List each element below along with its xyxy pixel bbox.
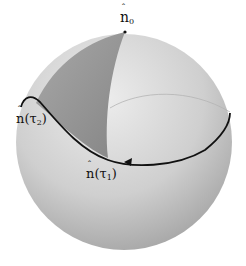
sphere: [16, 34, 232, 250]
sphere-diagram: [0, 0, 246, 266]
label-n0: n0: [120, 10, 134, 26]
n0-point: [123, 30, 126, 33]
label-n-tau2: n(τ2): [16, 112, 47, 127]
label-n-tau1: n(τ1): [86, 167, 117, 182]
